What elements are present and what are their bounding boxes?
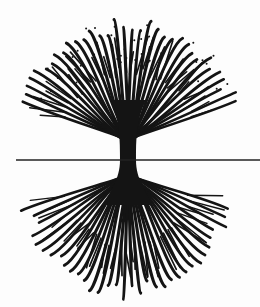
canopy-dot: [72, 56, 74, 58]
canopy-dot: [62, 89, 64, 91]
canopy-dot: [216, 88, 218, 90]
canopy-dot: [125, 57, 127, 59]
canopy-dot: [76, 82, 78, 84]
canopy-dot: [133, 39, 135, 41]
canopy-dot: [57, 77, 59, 79]
canopy-dot: [192, 42, 194, 44]
canopy-dot: [206, 63, 208, 65]
canopy-dot: [80, 65, 82, 67]
canopy-dot: [77, 50, 79, 52]
canopy-dot: [114, 26, 116, 28]
canopy-dot: [148, 36, 150, 38]
twig-stroke: [134, 246, 135, 269]
canopy-dot: [40, 97, 42, 99]
canopy-dot: [120, 61, 122, 63]
canopy-dot: [94, 27, 96, 29]
twig-stroke: [122, 241, 123, 276]
canopy-dot: [50, 90, 52, 92]
canopy-dot: [213, 55, 215, 57]
tree-of-life-drawing: [0, 0, 260, 307]
canopy-dot: [150, 48, 152, 50]
canopy-dot: [110, 34, 112, 36]
canopy-dot: [85, 28, 87, 30]
canopy-dot: [202, 59, 204, 61]
twig-stroke: [188, 195, 223, 196]
canopy-dot: [49, 97, 51, 99]
canopy-dot: [197, 80, 199, 82]
canopy-dot: [226, 83, 228, 85]
canopy-dot: [140, 38, 142, 40]
canopy-dot: [47, 68, 49, 70]
canopy-dot: [195, 61, 197, 63]
canopy-dot: [146, 24, 148, 26]
canopy-dot: [134, 59, 136, 61]
canopy-dot: [56, 85, 58, 87]
canopy-dot: [124, 48, 126, 50]
canopy-dot: [116, 58, 118, 60]
canopy-dot: [93, 54, 95, 56]
canopy-dot: [120, 55, 122, 57]
canopy-dot: [148, 61, 150, 63]
tree-illustration: [0, 0, 260, 307]
canopy-dot: [141, 53, 143, 55]
